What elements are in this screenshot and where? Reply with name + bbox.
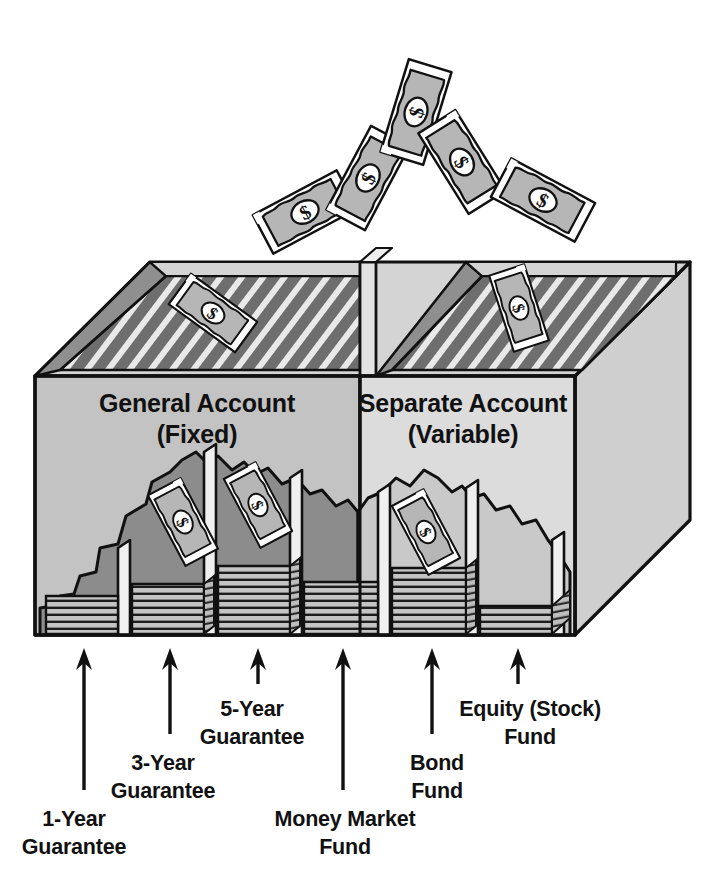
callout-5-year-label-line2: Guarantee [200, 725, 305, 749]
callout-money-market-label-line2: Fund [319, 835, 371, 859]
annuity-account-box-diagram: $ [0, 0, 712, 878]
general-account-back-lip [150, 262, 360, 276]
center-divider-wall-top [360, 248, 392, 262]
callouts-group: 1-YearGuarantee3-YearGuarantee5-YearGuar… [22, 648, 601, 859]
callout-3-year-label-line2: Guarantee [111, 779, 216, 803]
callout-5-year: 5-YearGuarantee [200, 648, 305, 749]
falling-bill-5 [491, 158, 595, 241]
callout-5-year-label-line1: 5-Year [220, 697, 284, 721]
falling-bills-group [253, 59, 595, 253]
stack-1-year [46, 596, 118, 634]
callout-bond-label-line2: Fund [411, 779, 463, 803]
illustration-stage: $ [0, 0, 712, 878]
callout-equity-label-line1: Equity (Stock) [459, 697, 601, 721]
callout-1-year-label-line2: Guarantee [22, 835, 127, 859]
callout-1-year-label-line1: 1-Year [42, 807, 106, 831]
stack-3-year [132, 584, 204, 634]
callout-bond: BondFund [410, 648, 464, 803]
callout-equity-label-line2: Fund [504, 725, 556, 749]
callout-money-market-label-line1: Money Market [275, 807, 416, 831]
general-account-title-line2: (Fixed) [157, 420, 238, 448]
callout-equity: Equity (Stock)Fund [459, 648, 601, 749]
center-divider-wall [360, 262, 376, 376]
account-box: General Account (Fixed) Separate Account… [35, 248, 690, 635]
separate-account-title-line2: (Variable) [408, 420, 519, 448]
stack-equity [480, 606, 552, 634]
general-account-title-line1: General Account [99, 389, 296, 417]
stack-5-year [218, 566, 290, 634]
callout-1-year: 1-YearGuarantee [22, 648, 127, 859]
callout-3-year-label-line1: 3-Year [131, 751, 195, 775]
callout-bond-label-line1: Bond [410, 751, 464, 775]
stack-bond [392, 568, 466, 634]
separate-account-title-line1: Separate Account [359, 389, 568, 417]
callout-money-market: Money MarketFund [275, 648, 416, 859]
stack-money-market [304, 582, 378, 634]
